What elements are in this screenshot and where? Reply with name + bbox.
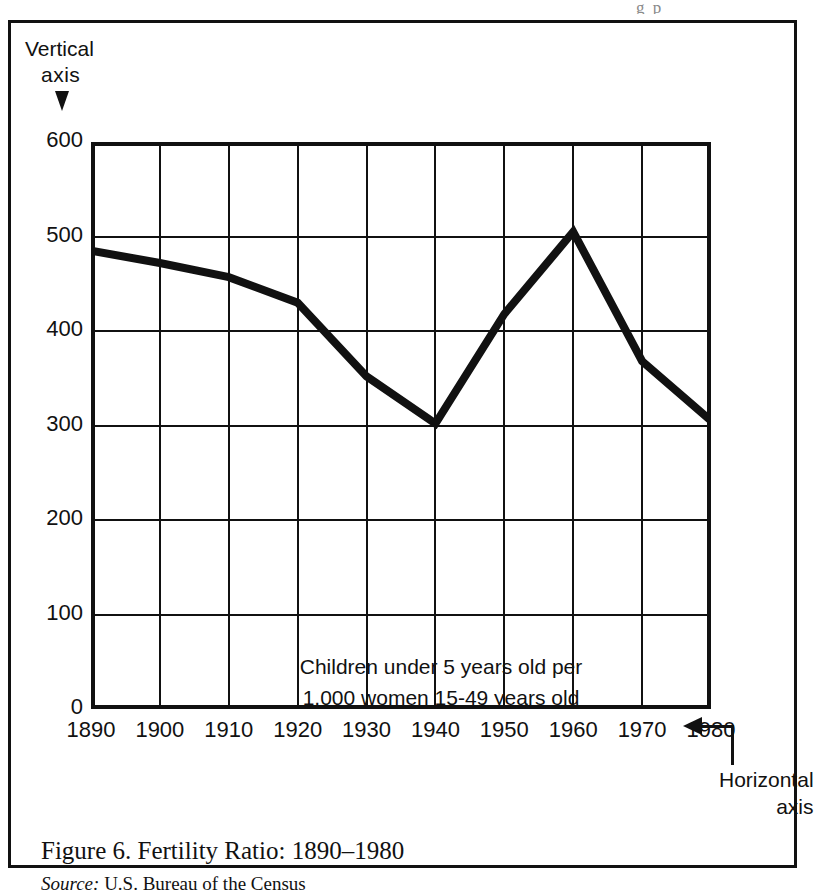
y-axis-tick-label: 300 bbox=[19, 411, 83, 437]
y-axis-tick-label: 100 bbox=[19, 600, 83, 626]
horizontal-axis-annotation-line1: Horizontal bbox=[719, 768, 814, 791]
x-axis-tick-label: 1950 bbox=[469, 717, 539, 743]
data-series-line bbox=[91, 232, 711, 424]
y-axis-tick-label: 600 bbox=[19, 127, 83, 153]
x-axis-tick-label: 1900 bbox=[125, 717, 195, 743]
source-line: Source: U.S. Bureau of the Census bbox=[41, 872, 741, 894]
down-arrow-icon bbox=[55, 91, 69, 111]
in-chart-note: Children under 5 years old per 1,000 wom… bbox=[241, 651, 641, 713]
x-axis-tick-label: 1890 bbox=[56, 717, 126, 743]
horizontal-axis-leader-horizontal bbox=[699, 725, 734, 728]
source-text: U.S. Bureau of the Census bbox=[104, 873, 306, 894]
x-axis-tick-label: 1920 bbox=[263, 717, 333, 743]
x-axis-tick-label: 1970 bbox=[607, 717, 677, 743]
source-label: Source: bbox=[41, 873, 99, 894]
in-chart-note-line2: 1,000 women 15-49 years old bbox=[241, 682, 641, 713]
horizontal-axis-leader-vertical bbox=[731, 725, 734, 765]
horizontal-axis-annotation-line2: axis bbox=[719, 793, 814, 820]
x-axis-tick-label: 1910 bbox=[194, 717, 264, 743]
vertical-axis-annotation-line2: axis bbox=[25, 62, 94, 88]
x-axis-tick-label: 1960 bbox=[538, 717, 608, 743]
x-axis-tick-label: 1930 bbox=[332, 717, 402, 743]
figure-caption: Figure 6. Fertility Ratio: 1890–1980 bbox=[41, 835, 741, 867]
vertical-axis-annotation-line1: Vertical bbox=[25, 37, 94, 60]
horizontal-axis-annotation: Horizontal axis bbox=[719, 766, 814, 820]
figure-box: Vertical axis Children under 5 years old… bbox=[8, 20, 797, 868]
line-chart-svg bbox=[91, 142, 711, 709]
y-axis-tick-label: 200 bbox=[19, 505, 83, 531]
page-bleed-text: g p bbox=[636, 0, 756, 14]
y-axis-tick-label: 400 bbox=[19, 316, 83, 342]
caption-block: Figure 6. Fertility Ratio: 1890–1980 Sou… bbox=[41, 835, 741, 894]
vertical-axis-annotation: Vertical axis bbox=[25, 36, 94, 88]
in-chart-note-line1: Children under 5 years old per bbox=[300, 655, 583, 678]
grid-horizontal-lines bbox=[91, 237, 711, 615]
plot-area: Children under 5 years old per 1,000 wom… bbox=[91, 142, 711, 709]
x-axis-tick-label: 1940 bbox=[400, 717, 470, 743]
y-axis-tick-label: 500 bbox=[19, 222, 83, 248]
